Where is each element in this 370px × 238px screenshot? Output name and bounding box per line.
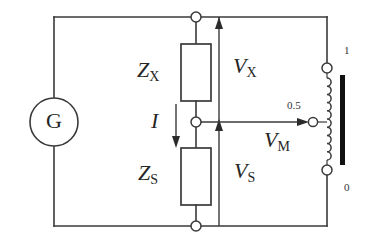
coil-winding	[327, 78, 331, 160]
node-top	[191, 12, 201, 22]
impedance-unknown-subscript: X	[149, 69, 159, 84]
vm-arrow-head	[297, 118, 309, 126]
impedance-unknown-label: ZX	[137, 59, 160, 84]
divider-tap-terminal	[308, 117, 317, 126]
divider-top-label: 1	[344, 45, 350, 56]
voltage-standard-subscript: S	[247, 170, 255, 185]
divider-terminal-bottom	[322, 165, 332, 175]
impedance-standard-label: ZS	[138, 162, 158, 187]
voltage-measured-symbol: V	[264, 127, 277, 152]
impedance-unknown-box	[181, 44, 211, 101]
voltage-measured-subscript: M	[277, 139, 290, 154]
voltage-unknown-label: VX	[233, 55, 257, 80]
divider-bottom-label: 0	[344, 182, 350, 193]
voltage-unknown-symbol: V	[233, 53, 246, 78]
impedance-standard-box	[181, 148, 211, 205]
magnetic-core-bar	[340, 75, 345, 165]
node-middle	[191, 117, 201, 127]
impedance-standard-subscript: S	[150, 172, 158, 187]
voltage-standard-label: VS	[234, 160, 255, 185]
divider-tap-label: 0.5	[287, 100, 301, 111]
current-symbol: I	[151, 108, 158, 133]
circuit-diagram: G ZX ZS I VX VS VM 0.5 1 0	[0, 0, 370, 238]
impedance-standard-symbol: Z	[138, 160, 150, 185]
generator-label: G	[46, 110, 62, 132]
voltage-vs-arrow-head-mid	[215, 119, 223, 131]
current-arrow-head	[172, 136, 180, 148]
voltage-measured-label: VM	[264, 129, 290, 154]
voltage-vx-arrow-head-top	[215, 17, 223, 29]
current-label: I	[151, 110, 158, 132]
impedance-unknown-symbol: Z	[137, 57, 149, 82]
voltage-unknown-subscript: X	[246, 65, 256, 80]
divider-terminal-top	[322, 63, 332, 73]
node-bottom	[191, 221, 201, 231]
voltage-standard-symbol: V	[234, 158, 247, 183]
